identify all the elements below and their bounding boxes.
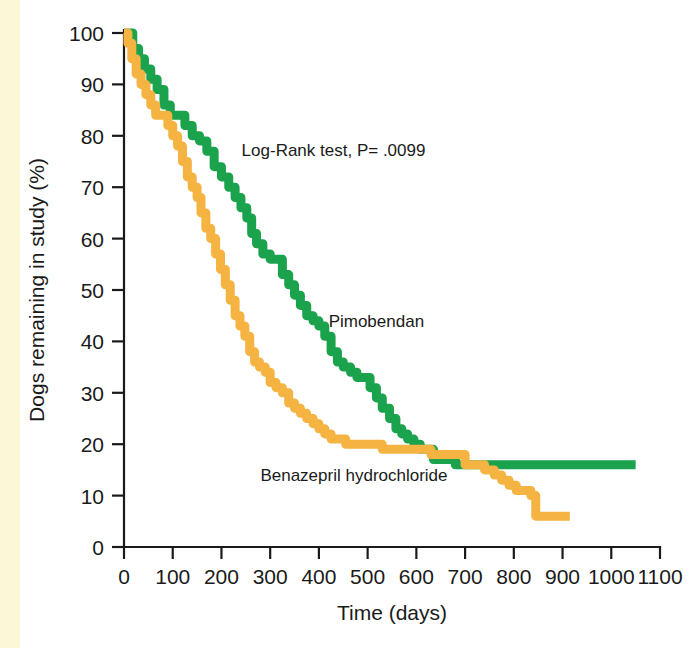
- y-tick-label-20: 20: [81, 433, 104, 456]
- curve-label-benazepril-hydrochloride: Benazepril hydrochloride: [260, 466, 447, 485]
- curve-label-pimobendan: Pimobendan: [329, 312, 424, 331]
- y-tick-label-70: 70: [81, 176, 104, 199]
- x-tick-label-100: 100: [155, 565, 190, 588]
- x-tick-label-700: 700: [448, 565, 483, 588]
- x-tick-label-900: 900: [545, 565, 580, 588]
- x-tick-label-800: 800: [496, 565, 531, 588]
- x-axis-ticks: [124, 547, 660, 559]
- x-tick-label-500: 500: [350, 565, 385, 588]
- y-tick-label-50: 50: [81, 279, 104, 302]
- x-tick-label-400: 400: [301, 565, 336, 588]
- y-axis-title: Dogs remaining in study (%): [25, 158, 48, 422]
- x-tick-label-1100: 1100: [637, 565, 682, 588]
- y-tick-label-10: 10: [81, 485, 104, 508]
- curve-benazepril-hydrochloride: [124, 33, 570, 516]
- x-axis-title: Time (days): [337, 601, 447, 624]
- x-tick-label-200: 200: [204, 565, 239, 588]
- y-tick-label-80: 80: [81, 125, 104, 148]
- y-tick-label-100: 100: [69, 22, 104, 45]
- survival-curves: [124, 33, 636, 516]
- kaplan-meier-chart: 0102030405060708090100 01002003004005006…: [0, 0, 697, 648]
- y-tick-label-40: 40: [81, 330, 104, 353]
- x-axis-tick-labels: 010020030040050060070080090010001100: [118, 565, 682, 588]
- chart-annotations: Log-Rank test, P= .0099: [242, 141, 426, 160]
- x-tick-label-600: 600: [399, 565, 434, 588]
- annotation-log-rank-test: Log-Rank test, P= .0099: [242, 141, 426, 160]
- figure-canvas: 0102030405060708090100 01002003004005006…: [0, 0, 697, 648]
- x-tick-label-300: 300: [253, 565, 288, 588]
- y-tick-label-30: 30: [81, 382, 104, 405]
- y-axis-tick-labels: 0102030405060708090100: [69, 22, 104, 559]
- y-tick-label-0: 0: [92, 536, 104, 559]
- y-tick-label-60: 60: [81, 228, 104, 251]
- x-tick-label-1000: 1000: [588, 565, 635, 588]
- curve-pimobendan: [124, 33, 636, 465]
- y-axis-ticks: [112, 33, 124, 547]
- x-tick-label-0: 0: [118, 565, 130, 588]
- y-tick-label-90: 90: [81, 73, 104, 96]
